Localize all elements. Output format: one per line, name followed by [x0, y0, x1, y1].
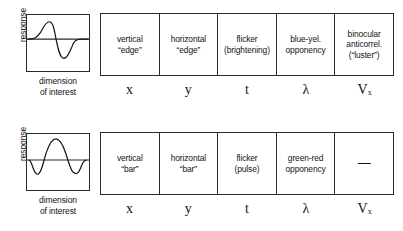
symbol-row-bar: x y t λ Vx: [100, 196, 394, 222]
symbol-edge-lambda: λ: [276, 77, 335, 103]
symbol-edge-y-text: y: [185, 77, 192, 103]
cell-edge-flicker: flicker (brightening): [218, 14, 277, 75]
cell-edge-vertical: vertical “edge”: [101, 14, 160, 75]
cell-bar-vertical: vertical “bar”: [101, 133, 160, 194]
symbol-bar-y: y: [159, 196, 218, 222]
waveform-plot-even-symmetric: [26, 133, 90, 191]
odd-symmetric-curve: [28, 22, 88, 59]
x-axis-label: dimension of interest: [20, 76, 96, 98]
symbol-bar-t-text: t: [245, 196, 249, 222]
figure-row-odd-symmetric-edge: response dimension of interest vertical …: [0, 8, 403, 112]
cell-edge-horizontal: horizontal “edge”: [160, 14, 219, 75]
waveform-plot-odd-symmetric: [26, 14, 90, 72]
plot-group-bar: response dimension of interest: [10, 127, 96, 231]
symbol-bar-x: x: [100, 196, 159, 222]
symbol-bar-y-text: y: [185, 196, 192, 222]
cell-bar-flicker: flicker (pulse): [218, 133, 277, 194]
symbol-bar-t: t: [218, 196, 277, 222]
odd-symmetric-waveform-svg: [27, 15, 89, 71]
x-axis-label: dimension of interest: [20, 195, 96, 217]
symbol-edge-lambda-text: λ: [302, 77, 309, 103]
x-axis-label-line1: dimension: [20, 195, 96, 206]
symbol-edge-t: t: [218, 77, 277, 103]
receptive-field-figure: response dimension of interest vertical …: [0, 0, 403, 231]
symbol-bar-vx-subscript: x: [368, 199, 372, 225]
symbol-bar-lambda-text: λ: [302, 196, 309, 222]
x-axis-label-line2: of interest: [20, 87, 96, 98]
cell-edge-chromatic: blue-yel. opponency: [277, 14, 336, 75]
x-axis-label-line1: dimension: [20, 76, 96, 87]
symbol-edge-vx-subscript: x: [368, 80, 372, 106]
even-symmetric-waveform-svg: [27, 134, 89, 190]
cell-table-bar: vertical “bar” horizontal “bar” flicker …: [100, 132, 394, 228]
symbol-edge-x: x: [100, 77, 159, 103]
cell-bar-chromatic: green-red opponency: [277, 133, 336, 194]
cell-table-edge: vertical “edge” horizontal “edge” flicke…: [100, 13, 394, 109]
symbol-bar-lambda: λ: [276, 196, 335, 222]
cell-edge-binocular: binocular anticorrel. (“luster”): [335, 14, 393, 75]
symbol-edge-y: y: [159, 77, 218, 103]
symbol-edge-x-text: x: [126, 77, 133, 103]
symbol-edge-vx: Vx: [335, 77, 394, 103]
cell-row-edge: vertical “edge” horizontal “edge” flicke…: [100, 13, 394, 76]
figure-row-even-symmetric-bar: response dimension of interest vertical …: [0, 127, 403, 231]
symbol-edge-t-text: t: [245, 77, 249, 103]
symbol-bar-vx: Vx: [335, 196, 394, 222]
symbol-edge-vx-text: V: [358, 77, 368, 103]
x-axis-label-line2: of interest: [20, 206, 96, 217]
cell-row-bar: vertical “bar” horizontal “bar” flicker …: [100, 132, 394, 195]
symbol-bar-x-text: x: [126, 196, 133, 222]
symbol-bar-vx-text: V: [358, 196, 368, 222]
symbol-row-edge: x y t λ Vx: [100, 77, 394, 103]
plot-group-edge: response dimension of interest: [10, 8, 96, 112]
cell-bar-binocular-empty: —: [335, 133, 393, 194]
even-symmetric-curve: [29, 139, 86, 174]
cell-bar-horizontal: horizontal “bar”: [160, 133, 219, 194]
